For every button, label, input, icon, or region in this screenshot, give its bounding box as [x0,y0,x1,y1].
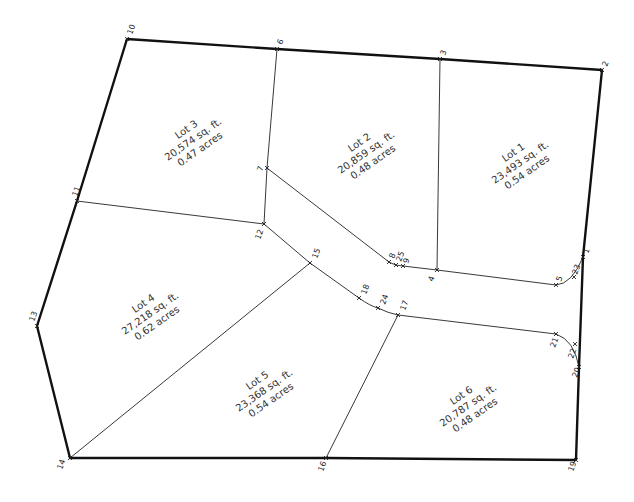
point-label-9: 9 [401,257,411,265]
lot-label-2: Lot 2 20,859 sq. ft. 0.48 acres [329,119,404,186]
point-label-24: 24 [378,293,390,306]
point-label-16: 16 [316,460,328,473]
lot-label-5: Lot 5 23,368 sq. ft. 0.54 acres [227,357,302,424]
point-label-21: 21 [548,336,560,349]
point-label-12: 12 [253,228,265,241]
point-label-4: 4 [426,275,436,283]
point-label-23: 23 [570,263,582,276]
lot-label-3: Lot 3 20,574 sq. ft. 0.47 acres [156,106,231,173]
point-label-6: 6 [275,38,285,46]
point-label-19: 19 [566,460,578,473]
point-labels: 10 6 3 2 1 23 5 4 8 25 9 7 12 11 13 14 1… [27,23,610,473]
subdivision-plat: 10 6 3 2 1 23 5 4 8 25 9 7 12 11 13 14 1… [0,0,634,502]
point-label-3: 3 [438,49,448,57]
point-label-20: 20 [570,366,582,379]
point-label-2: 2 [600,60,610,68]
point-label-10: 10 [125,23,137,36]
point-label-7: 7 [255,165,265,173]
lot-label-1: Lot 1 23,493 sq. ft. 0.54 acres [483,129,558,196]
point-label-14: 14 [55,458,67,471]
point-label-17: 17 [398,299,410,312]
lot-label-4: Lot 4 27,218 sq. ft. 0.62 acres [113,280,188,347]
lot-lines [70,49,583,458]
lot-label-6: Lot 6 20,787 sq. ft. 0.48 acres [431,372,506,439]
point-label-5: 5 [554,275,564,283]
point-label-18: 18 [359,283,371,296]
point-label-15: 15 [310,247,322,260]
